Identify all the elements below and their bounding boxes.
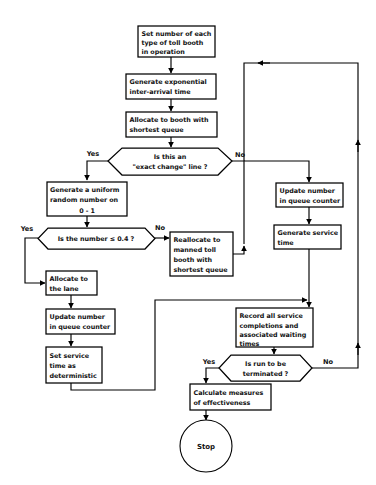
node-generate-uniform-line-0: Generate a uniform — [50, 186, 120, 194]
node-reallocate-line-3: shortest queue — [174, 266, 229, 274]
node-allocate-lane-line-1: the lane — [50, 285, 80, 293]
node-generate-uniform-line-2: 0 - 1 — [79, 207, 95, 215]
node-calculate-measures-line-1: of effectiveness — [194, 399, 251, 407]
node-set-number-line-2: in operation — [142, 48, 186, 56]
node-stop: Stop — [180, 420, 232, 472]
node-generate-uniform-line-1: random number on — [50, 196, 119, 204]
node-allocate-lane-line-0: Allocate to — [50, 275, 89, 283]
node-generate-exponential-line-0: Generate exponential — [130, 78, 207, 86]
label-exact-change-yes: Yes — [86, 150, 100, 158]
edge-reallocate-to-exact-change-no-line — [233, 246, 244, 254]
node-update-number-right-line-0: Update number — [280, 187, 336, 195]
node-stop-label: Stop — [197, 443, 215, 451]
flowchart-canvas: Set number of each type of toll booth in… — [0, 0, 376, 485]
label-exact-change-no: No — [235, 151, 246, 159]
node-record-all: Record all service completions and assoc… — [236, 308, 313, 348]
node-set-number-line-1: type of toll booth — [142, 39, 204, 47]
flowchart-svg: Set number of each type of toll booth in… — [0, 0, 376, 485]
node-update-number-right-line-1: in queue counter — [280, 197, 341, 205]
node-generate-uniform: Generate a uniform random number on 0 - … — [47, 182, 127, 216]
node-record-all-line-3: times — [240, 340, 260, 348]
node-generate-service-line-0: Generate service — [278, 229, 339, 237]
edge-exact-change-yes-to-generate-uniform — [87, 161, 108, 180]
node-run-terminated-line-0: Is run to be — [245, 360, 287, 368]
node-allocate-booth: Allocate to booth with shortest queue — [126, 112, 217, 137]
node-record-all-line-2: associated waiting — [240, 331, 307, 339]
label-number-le-no: No — [155, 224, 166, 232]
node-generate-service-line-1: time — [278, 239, 295, 247]
node-number-le-line-0: Is the number ≤ 0.4 ? — [58, 235, 135, 243]
node-exact-change: Is this an "exact change" line ? — [108, 148, 232, 175]
edge-number-le-yes-to-allocate-lane — [25, 238, 45, 283]
node-exact-change-line-1: "exact change" line ? — [133, 163, 208, 171]
node-calculate-measures-line-0: Calculate measures — [194, 389, 264, 397]
node-generate-exponential: Generate exponential inter-arrival time — [126, 74, 216, 99]
node-record-all-line-0: Record all service — [240, 312, 304, 320]
node-allocate-booth-line-0: Allocate to booth with — [130, 116, 209, 124]
node-run-terminated-line-1: terminated ? — [243, 370, 289, 378]
edge-exact-change-no-to-update-number — [244, 161, 309, 182]
node-allocate-lane: Allocate to the lane — [46, 271, 97, 295]
node-set-service-time-line-2: deterministic — [50, 372, 97, 380]
node-reallocate-line-1: manned toll — [174, 246, 216, 254]
node-update-number-right: Update number in queue counter — [276, 183, 343, 207]
node-allocate-booth-line-1: shortest queue — [130, 126, 185, 134]
node-update-number-left-line-0: Update number — [50, 313, 106, 321]
node-exact-change-line-0: Is this an — [154, 153, 187, 161]
node-record-all-line-1: completions and — [240, 322, 299, 330]
node-generate-service: Generate service time — [274, 225, 341, 249]
node-set-service-time: Set service time as deterministic — [46, 347, 102, 383]
node-calculate-measures: Calculate measures of effectiveness — [190, 384, 271, 410]
label-run-terminated-yes: Yes — [202, 358, 216, 366]
node-run-terminated: Is run to be terminated ? — [219, 355, 312, 381]
edge-run-terminated-yes-to-calculate — [206, 368, 219, 383]
node-set-number: Set number of each type of toll booth in… — [138, 26, 215, 57]
node-reallocate-line-0: Reallocate to — [174, 236, 222, 244]
node-update-number-left: Update number in queue counter — [46, 309, 115, 334]
edge-exact-change-no-down — [232, 161, 244, 244]
node-reallocate: Reallocate to manned toll booth with sho… — [170, 232, 233, 276]
node-set-number-line-0: Set number of each — [142, 30, 212, 38]
node-reallocate-line-2: booth with — [174, 256, 213, 264]
node-number-le: Is the number ≤ 0.4 ? — [38, 228, 155, 249]
node-generate-exponential-line-1: inter-arrival time — [130, 88, 192, 96]
label-number-le-yes: Yes — [20, 225, 34, 233]
label-run-terminated-no: No — [323, 358, 334, 366]
node-update-number-left-line-1: in queue counter — [50, 323, 111, 331]
node-set-service-time-line-1: time as — [50, 362, 76, 370]
node-set-service-time-line-0: Set service — [50, 352, 90, 360]
